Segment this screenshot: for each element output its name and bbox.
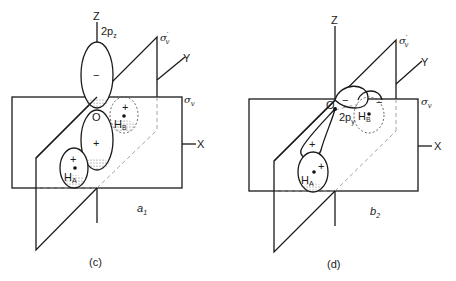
hb-label-c: HB	[114, 118, 127, 131]
back-lobe-sign: −	[342, 94, 348, 106]
hb-sign-d: −	[376, 96, 382, 108]
x-label-d: X	[434, 140, 442, 152]
orbital-symmetry-figure: Z 2pz σ′v Y σv X − O + + HB + HA a1 (c)	[0, 0, 456, 281]
orbital-label-d: 2py	[339, 111, 355, 126]
sigma-v-prime-label-c: σ′v	[160, 31, 169, 46]
caption-d: (d)	[327, 258, 340, 270]
hidden-diagonal-d	[335, 131, 396, 191]
z-label-d: Z	[331, 14, 338, 26]
ha-nucleus-d	[312, 170, 316, 174]
upper-lobe-shading	[86, 98, 108, 108]
sigma-v-prime-lower-c	[36, 188, 97, 250]
hb-label-d: HB	[358, 110, 371, 123]
caption-c: (c)	[89, 256, 102, 268]
symmetry-label-d: b2	[370, 205, 380, 219]
front-lobe-sign: +	[309, 138, 315, 150]
symmetry-label-c: a1	[137, 202, 147, 216]
orbital-label-c: 2pz	[101, 25, 117, 39]
oxygen-label-c: O	[92, 111, 101, 123]
x-label-c: X	[197, 138, 205, 150]
ha-sign-d: +	[318, 160, 324, 172]
hb-sign-c: +	[122, 101, 128, 113]
sigma-v-label-d: σv	[421, 96, 432, 110]
ha-nucleus-c	[73, 166, 77, 170]
panel-d: Z σ′v Y σv X O 2py − − HB + + HA b2 (d)	[249, 14, 442, 270]
y-axis-d	[396, 61, 422, 84]
py-back-lobe	[335, 86, 368, 108]
ha-sign-c: +	[70, 153, 76, 165]
sigma-v-prime-label-d: σ′v	[399, 34, 408, 49]
panel-c: Z 2pz σ′v Y σv X − O + + HB + HA a1 (c)	[12, 10, 205, 268]
y-label-d: Y	[421, 56, 429, 68]
y-label-c: Y	[183, 52, 191, 64]
upper-lobe-sign: −	[93, 69, 99, 81]
y-axis-c	[157, 57, 185, 80]
z-label-c: Z	[93, 10, 100, 22]
hb-nucleus-c	[122, 114, 126, 118]
sigma-v-prime-lower-d	[274, 191, 335, 252]
sigma-v-label-c: σv	[184, 94, 195, 108]
lower-lobe-sign: +	[93, 137, 99, 149]
oxygen-label-d: O	[326, 99, 335, 111]
